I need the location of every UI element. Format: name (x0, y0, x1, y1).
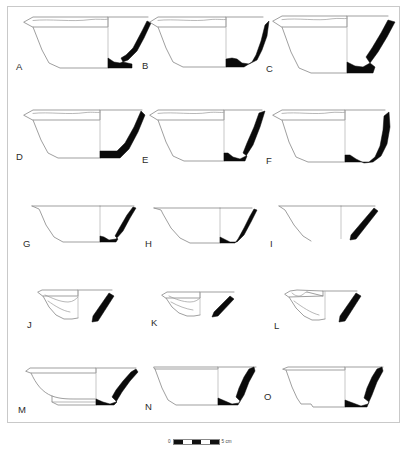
figure-E: E (148, 107, 270, 167)
figure-label-L: L (274, 321, 279, 331)
scale-bar-segment (201, 440, 210, 444)
figure-O: O (281, 364, 393, 416)
figure-C: C (271, 12, 397, 78)
figure-label-G: G (23, 239, 31, 249)
figure-label-A: A (16, 62, 23, 72)
figure-label-B: B (142, 61, 149, 71)
figure-label-I: I (270, 239, 273, 249)
figure-M: M (24, 366, 148, 416)
figure-label-E: E (142, 155, 149, 165)
scale-bar-end-label: 5 cm (222, 440, 232, 445)
scale-bar-segment (210, 440, 219, 444)
scale-bar-segment (192, 440, 201, 444)
figure-B: B (148, 14, 270, 76)
figure-label-N: N (145, 402, 152, 412)
figure-label-D: D (16, 152, 23, 162)
figure-A: A (22, 14, 152, 76)
figure-D: D (22, 107, 148, 165)
figure-label-F: F (266, 156, 272, 166)
figure-L: L (283, 288, 381, 328)
figure-label-K: K (151, 318, 158, 328)
scale-bar-start-label: 0 (168, 440, 171, 445)
pottery-plate: A B C (0, 0, 409, 461)
figure-label-M: M (18, 405, 26, 415)
scale-bar-segment (174, 440, 183, 444)
figure-label-J: J (27, 320, 32, 330)
figure-I: I (277, 203, 381, 249)
scale-bar: 0 5 cm (168, 437, 232, 447)
figure-G: G (30, 203, 140, 249)
figure-label-O: O (264, 392, 272, 402)
scale-bar-segment (183, 440, 192, 444)
figure-F: F (271, 107, 395, 167)
figure-N: N (152, 364, 268, 416)
figure-H: H (152, 205, 260, 251)
figure-label-H: H (145, 239, 152, 249)
figure-K: K (160, 290, 258, 328)
scale-bar-segments (173, 439, 220, 445)
figure-label-C: C (266, 64, 273, 74)
figure-J: J (36, 288, 136, 328)
